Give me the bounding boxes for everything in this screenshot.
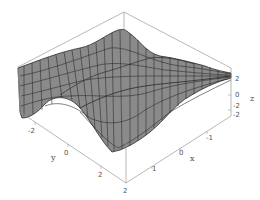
y-axis-label: y: [50, 153, 56, 162]
z-tick-neg2-b: -2: [233, 111, 240, 119]
z-tick-neg2-a: -2: [233, 102, 240, 110]
x-axis-label: x: [190, 154, 195, 163]
z-tick-2: 2: [235, 75, 239, 83]
z-axis-label: z: [250, 94, 254, 103]
x-tick-1: 1: [152, 165, 156, 173]
surface-mesh: [18, 29, 231, 152]
y-tick-0: 0: [64, 149, 68, 157]
x-tick-0: 0: [179, 149, 183, 157]
corner-tick-2: 2: [123, 187, 127, 195]
x-tick-neg1: -1: [206, 134, 213, 142]
z-tick-0: 0: [235, 91, 239, 99]
y-tick-2: 2: [98, 171, 102, 179]
surface-plot: 2 0 -2 -2 z -2 0 2 y 2 -1 0 1 x: [0, 0, 260, 200]
y-tick-neg2: -2: [28, 127, 35, 135]
